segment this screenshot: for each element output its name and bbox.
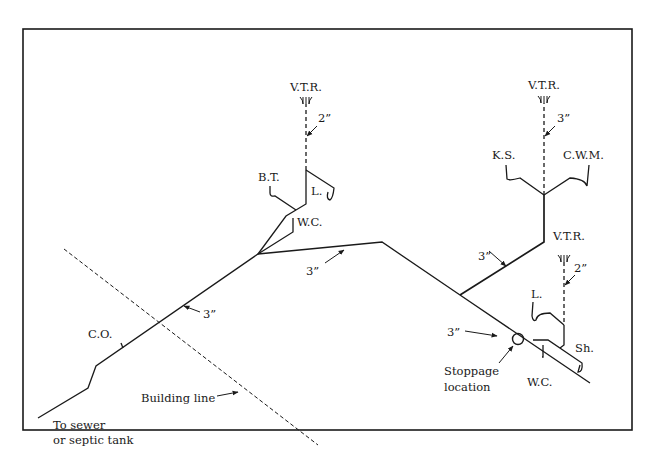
label-ks: K.S. [492, 148, 515, 162]
label-vtr-right-lower: V.T.R. [552, 229, 585, 243]
vtr-right-lower-cap-icon [558, 255, 570, 262]
bathtub-trap [270, 186, 296, 210]
label-branch-size: 3” [478, 249, 491, 263]
lavatory-right-trap [532, 302, 564, 325]
label-building-line: Building line [141, 391, 215, 405]
label-stoppage: Stoppage [444, 364, 499, 378]
arrow-vtr-left-size [307, 126, 317, 136]
label-to-sewer: To sewer [53, 418, 106, 432]
wc-left-fitting [258, 210, 296, 254]
plumbing-diagram: V.T.R. 2” B.T. L. W.C. 3” 3” C.O. Buildi… [0, 0, 651, 453]
label-stoppage-location: location [444, 380, 491, 394]
label-co: C.O. [88, 327, 112, 341]
right-lower-stack [560, 325, 564, 348]
arrow-main-lower-size [184, 306, 200, 312]
building-line [64, 249, 318, 445]
arrow-vtr-right-top-size [545, 126, 555, 136]
arrow-building-line [217, 392, 238, 396]
arrow-drain-right-size [465, 331, 497, 336]
label-lav-left: L. [311, 184, 322, 198]
arrow-stoppage [499, 346, 513, 363]
label-wc-right: W.C. [527, 375, 553, 389]
right-branch-pipe [460, 195, 544, 295]
label-vtr-left-size: 2” [318, 111, 331, 125]
label-wc-left: W.C. [297, 215, 323, 229]
label-vtr-right-top: V.T.R. [527, 78, 560, 92]
label-vtr-right-top-size: 3” [557, 111, 570, 125]
label-cwm: C.W.M. [563, 148, 604, 162]
label-drain-right-size: 3” [447, 325, 460, 339]
label-vtr-right-lower-size: 2” [574, 261, 587, 275]
cleanout-mark [121, 343, 123, 348]
vtr-left-cap-icon [300, 97, 312, 104]
stoppage-location-marker [513, 334, 524, 345]
label-main-lower-size: 3” [203, 307, 216, 321]
arrow-main-upper-size [325, 250, 344, 263]
wc-left-closet-bend [258, 218, 293, 254]
clothes-washer-trap [544, 165, 589, 195]
label-vtr-left: V.T.R. [289, 80, 322, 94]
left-stack [296, 170, 306, 210]
vtr-right-top-cap-icon [538, 96, 550, 103]
label-bt: B.T. [258, 170, 280, 184]
kitchen-sink-trap [506, 165, 544, 195]
label-lav-right: L. [531, 287, 542, 301]
arrow-branch-size [489, 251, 506, 266]
label-septic-tank: or septic tank [53, 433, 134, 447]
arrow-vtr-right-lower-size [565, 275, 575, 285]
label-main-upper-size: 3” [306, 264, 319, 278]
label-shower: Sh. [575, 341, 594, 355]
